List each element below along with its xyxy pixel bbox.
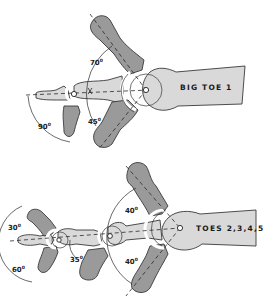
- lesser-toes-mtp-extension-angle: 400: [125, 206, 138, 215]
- big-toe-title: BIG TOE 1: [180, 83, 233, 92]
- lesser-toes-distal-phalanx-flexed: [38, 246, 58, 273]
- lesser-toes-pip-joint-gap: [99, 226, 104, 246]
- big-toe-ip-flexion-angle: 900: [38, 122, 51, 131]
- big-toe-mtp-extension-angle: 700: [90, 58, 103, 67]
- big-toe-ip-pivot: [71, 91, 76, 96]
- big-toe-distal-phalanx-flexed: [63, 106, 80, 137]
- big-toe-mtp-flexion-angle: 450: [88, 117, 101, 126]
- lesser-toes-pip-pivot: [108, 234, 113, 239]
- lesser-toes-pip-flexion-angle: 350: [70, 255, 83, 264]
- lesser-toes-proximal-phalanx: [108, 220, 162, 245]
- lesser-toes-panel: 400 400 350 300 600 TOES 2,3,4,5: [0, 163, 264, 296]
- lesser-toes-proximal-phalanx-flexed: [131, 244, 168, 293]
- lesser-toes-dip-flexion-angle: 600: [12, 265, 25, 274]
- lesser-toes-dip-pivot: [57, 238, 61, 242]
- big-toe-panel: 700 450 900 BIG TOE 1: [26, 14, 245, 150]
- lesser-toes-dip-extension-angle: 300: [8, 223, 21, 232]
- big-toe-proximal-phalanx: [74, 76, 124, 104]
- toe-range-of-motion-diagram: 700 450 900 BIG TOE 1: [0, 0, 268, 307]
- lesser-toes-mtp-pivot: [177, 225, 182, 230]
- lesser-toes-mtp-flexion-angle: 400: [125, 257, 138, 266]
- lesser-toes-title: TOES 2,3,4,5: [196, 224, 264, 233]
- lesser-toes-middle-phalanx: [58, 229, 102, 246]
- big-toe-mtp-pivot: [143, 87, 148, 92]
- lesser-toes-middle-phalanx-flexed: [80, 248, 108, 280]
